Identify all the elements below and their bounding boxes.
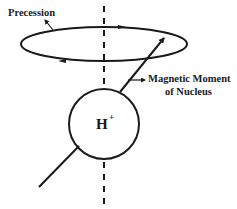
magnetic-moment-tail (39, 146, 79, 187)
precession-diagram: Precession Magnetic Moment of Nucleus H … (0, 0, 237, 209)
precession-label: Precession (8, 7, 55, 18)
nucleus-label: H (96, 116, 108, 132)
magnetic-moment-label-line1: Magnetic Moment (148, 73, 231, 84)
precession-pointer-arrow (45, 20, 53, 30)
magnetic-moment-label-line2: of Nucleus (165, 86, 212, 97)
diagram-canvas: Precession Magnetic Moment of Nucleus H … (0, 0, 237, 209)
nucleus-charge-label: + (109, 112, 114, 122)
